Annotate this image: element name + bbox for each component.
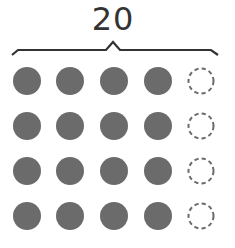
filled-dot [100, 202, 128, 230]
empty-dashed-dot [189, 69, 214, 94]
filled-dot [100, 67, 128, 95]
filled-dot [13, 67, 41, 95]
empty-dashed-dot [189, 204, 214, 229]
curly-brace [12, 42, 218, 55]
dot-grid-diagram [0, 0, 235, 248]
filled-dot [13, 112, 41, 140]
filled-dot [144, 112, 172, 140]
filled-dot [56, 112, 84, 140]
filled-dot [56, 202, 84, 230]
dot-grid [13, 67, 214, 230]
filled-dot [13, 202, 41, 230]
filled-dot [56, 67, 84, 95]
filled-dot [56, 157, 84, 185]
filled-dot [100, 112, 128, 140]
filled-dot [144, 202, 172, 230]
empty-dashed-dot [189, 114, 214, 139]
filled-dot [144, 157, 172, 185]
filled-dot [100, 157, 128, 185]
filled-dot [144, 67, 172, 95]
filled-dot [13, 157, 41, 185]
empty-dashed-dot [189, 159, 214, 184]
